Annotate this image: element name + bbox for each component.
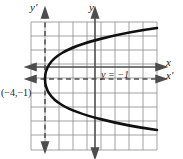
y-axis-label: y <box>89 2 94 13</box>
y-prime-axis-label: y′ <box>30 2 37 13</box>
x-axis-label: x <box>166 57 171 68</box>
vertex-point-label: (−4,−1) <box>1 88 31 98</box>
x-prime-axis-label: x′ <box>166 70 173 81</box>
y-axis <box>92 8 99 158</box>
directrix-equation-label: y = −1 <box>101 70 129 80</box>
figure-canvas: y′ y x x′ y = −1 (−4,−1) <box>0 0 183 159</box>
graph-svg <box>0 0 183 159</box>
x-prime-axis <box>26 76 166 83</box>
